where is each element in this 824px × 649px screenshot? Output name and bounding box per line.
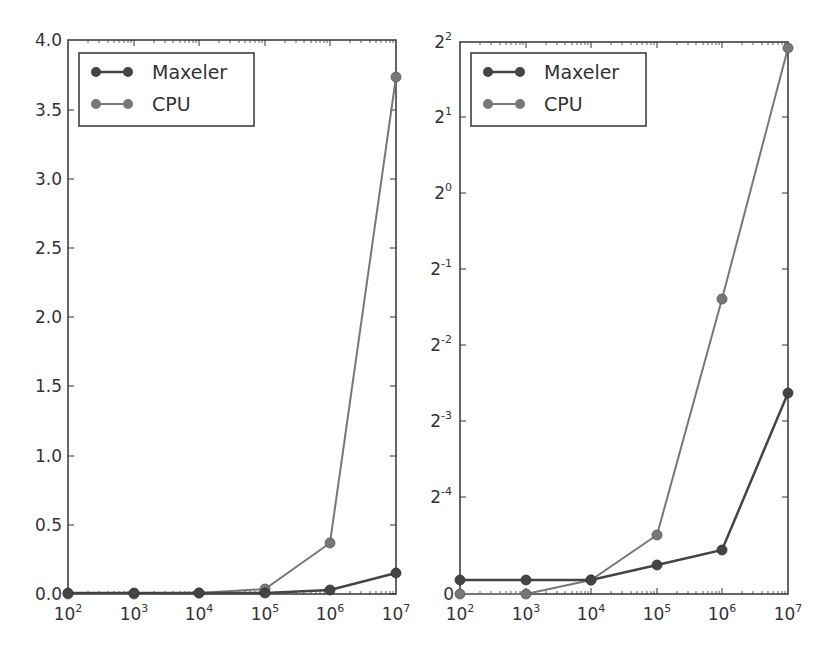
left-series-cpu [63,72,401,599]
right-y-tick-label: 0 [443,584,454,604]
right-y-tick-label: 2-3 [430,409,452,431]
left-x-tick-label: 106 [316,602,345,624]
legend-label-cpu: CPU [152,93,191,115]
left-x-tick-label: 107 [382,602,411,624]
right-y-tick-label: 2-2 [430,333,452,355]
left-y-tick-label: 3.0 [35,169,62,189]
left-y-tick-label: 2.5 [35,238,62,258]
right-x-tick-label: 103 [512,602,541,624]
left-x-tick-label: 104 [185,602,214,624]
left-y-tick-label: 0.5 [35,515,62,535]
left-chart: 0.0 0.5 1.0 1.5 2.0 2.5 3.0 3.5 4.0 102 … [35,30,410,624]
right-x-tick-label: 104 [577,602,606,624]
right-series-maxeler [455,388,793,585]
left-y-axis [68,110,396,594]
left-y-tick-label: 2.0 [35,307,62,327]
legend-label-maxeler: Maxeler [544,61,619,83]
figure: 0.0 0.5 1.0 1.5 2.0 2.5 3.0 3.5 4.0 102 … [0,0,824,649]
left-y-tick-label: 0.0 [35,584,62,604]
left-y-tick-label: 3.5 [35,100,62,120]
legend-label-maxeler: Maxeler [152,61,227,83]
right-y-tick-label: 20 [434,181,452,203]
legend-label-cpu: CPU [544,93,583,115]
right-y-tick-label: 22 [434,30,452,52]
left-x-tick-label: 103 [120,602,149,624]
right-x-tick-label: 105 [643,602,672,624]
right-y-axis [460,117,788,497]
right-x-tick-label: 102 [446,602,475,624]
left-y-tick-label: 4.0 [35,30,62,50]
left-legend: Maxeler CPU [79,53,254,126]
right-legend: Maxeler CPU [471,53,646,126]
left-y-tick-label: 1.5 [35,376,62,396]
right-x-tick-label: 107 [774,602,803,624]
right-y-tick-label: 21 [434,105,452,127]
left-y-tick-label: 1.0 [35,446,62,466]
right-chart: 0 2-4 2-3 2-2 2-1 20 21 22 102 103 104 1… [430,30,802,624]
left-x-tick-label: 105 [251,602,280,624]
right-x-tick-label: 106 [708,602,737,624]
right-y-tick-label: 2-4 [430,485,452,507]
right-y-tick-label: 2-1 [430,257,452,279]
left-x-tick-label: 102 [54,602,83,624]
